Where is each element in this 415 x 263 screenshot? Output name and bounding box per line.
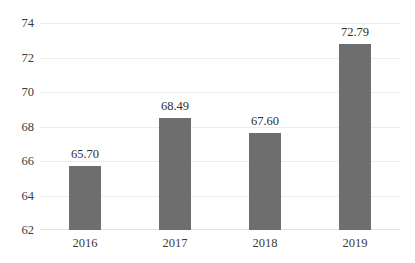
y-axis: 74 72 70 68 66 64 62	[0, 0, 36, 263]
bar-2019[interactable]	[339, 44, 371, 230]
x-tick-label-2017: 2017	[140, 236, 210, 251]
bar-chart: 74 72 70 68 66 64 62 65.70 68.49 67.60 7…	[0, 0, 415, 263]
x-tick-label-2016: 2016	[50, 236, 120, 251]
bar-value-2016: 65.70	[50, 147, 120, 162]
y-tick-label-74: 74	[0, 16, 34, 31]
bar-value-2019: 72.79	[320, 25, 390, 40]
bar-2016[interactable]	[69, 166, 101, 230]
y-tick-label-70: 70	[0, 85, 34, 100]
x-tick-label-2019: 2019	[320, 236, 390, 251]
plot-area	[40, 23, 400, 230]
bar-value-2018: 67.60	[230, 114, 300, 129]
y-tick-label-72: 72	[0, 50, 34, 65]
gridline-74	[40, 23, 400, 24]
bar-2018[interactable]	[249, 133, 281, 230]
y-tick-label-68: 68	[0, 119, 34, 134]
x-tick-label-2018: 2018	[230, 236, 300, 251]
bar-2017[interactable]	[159, 118, 191, 230]
y-tick-label-62: 62	[0, 223, 34, 238]
y-tick-label-64: 64	[0, 188, 34, 203]
y-tick-label-66: 66	[0, 154, 34, 169]
bar-value-2017: 68.49	[140, 99, 210, 114]
